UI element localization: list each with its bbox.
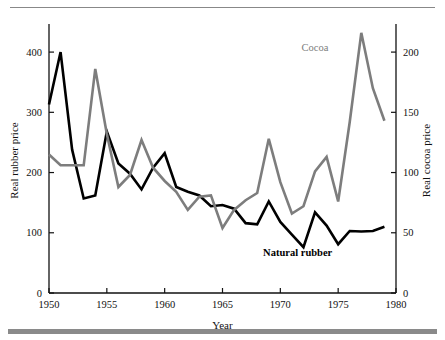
x-tick-label: 1970 bbox=[270, 299, 291, 310]
x-tick-label: 1950 bbox=[39, 299, 60, 310]
y-tick-label-right: 150 bbox=[403, 107, 419, 118]
x-tick-label: 1975 bbox=[328, 299, 349, 310]
y-axis-title-left: Real rubber price bbox=[8, 122, 20, 198]
y-tick-label-left: 200 bbox=[26, 167, 42, 178]
x-tick-label: 1980 bbox=[386, 299, 407, 310]
series-line-natural-rubber bbox=[49, 52, 384, 247]
y-tick-label-left: 0 bbox=[37, 288, 42, 299]
series-group bbox=[49, 33, 384, 247]
chart-figure: 0100200300400050100150200195019551960196… bbox=[0, 0, 445, 340]
series-label-natural-rubber: Natural rubber bbox=[263, 247, 332, 258]
x-tick-label: 1965 bbox=[212, 299, 233, 310]
series-line-cocoa bbox=[49, 33, 384, 228]
series-label-cocoa: Cocoa bbox=[302, 42, 329, 53]
bottom-divider-rule bbox=[8, 329, 437, 334]
y-tick-label-right: 100 bbox=[403, 167, 419, 178]
y-tick-label-left: 100 bbox=[26, 227, 42, 238]
y-tick-label-left: 300 bbox=[26, 107, 42, 118]
y-tick-label-right: 200 bbox=[403, 47, 419, 58]
x-tick-label: 1955 bbox=[96, 299, 117, 310]
annotation-group: Natural rubberCocoa bbox=[263, 42, 332, 258]
line-chart-svg: 0100200300400050100150200195019551960196… bbox=[0, 0, 445, 340]
y-tick-label-left: 400 bbox=[26, 47, 42, 58]
chart-plot-area: 0100200300400050100150200195019551960196… bbox=[0, 0, 445, 340]
y-tick-label-right: 0 bbox=[403, 288, 408, 299]
y-axis-title-right: Real cocoa price bbox=[420, 124, 432, 197]
y-tick-label-right: 50 bbox=[403, 227, 414, 238]
x-tick-label: 1960 bbox=[154, 299, 175, 310]
